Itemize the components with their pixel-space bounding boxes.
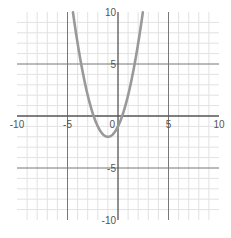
x-tick-label: -5	[63, 119, 72, 130]
y-tick-label: -5	[107, 163, 116, 174]
x-tick-label: 5	[166, 119, 172, 130]
y-tick-label: 10	[105, 7, 117, 18]
y-tick-label: 5	[110, 59, 116, 70]
function-graph: -10-50510 105-5-10	[0, 0, 231, 238]
x-tick-label: 0	[109, 119, 115, 130]
x-tick-label: 10	[213, 119, 225, 130]
x-tick-label: -10	[10, 119, 25, 130]
y-tick-label: -10	[102, 215, 117, 226]
